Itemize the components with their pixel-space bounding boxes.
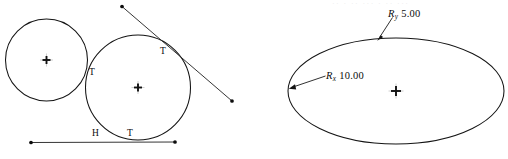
rx-arrow-head [289,84,296,89]
rx-leader [289,76,326,89]
tangent-circles-group [6,5,234,145]
rx-dimension-label: Rx10.00 [326,71,364,82]
line-endpoint-dot [173,140,177,144]
ry-leader [377,18,392,41]
rx-value: 10.00 [339,70,364,81]
tangent-label-baseline: T [127,129,133,139]
rx-subscript: x [333,75,336,83]
rx-symbol: R [326,70,333,81]
ry-dimension-label: Ry5.00 [388,9,421,20]
horizontal-tangent-line [29,140,177,144]
ry-value: 5.00 [401,8,420,19]
ry-subscript: y [395,13,398,21]
geometry-layer [0,0,508,159]
line-endpoint-dot [29,141,33,145]
ry-symbol: R [388,8,395,19]
small-circle-center-mark [40,54,53,67]
horizontal-label: H [92,129,99,139]
tangent-label-diagonal: T [160,47,166,57]
figure-canvas: ·· · ·· ··· · ·· ··· [0,0,508,159]
tangent-label-circles: T [89,68,95,78]
large-circle-center-mark [132,81,145,94]
line-endpoint-dot [230,99,234,103]
ellipse-group [288,18,504,145]
line-endpoint-dot [120,5,124,9]
ellipse-center-mark [389,84,404,99]
